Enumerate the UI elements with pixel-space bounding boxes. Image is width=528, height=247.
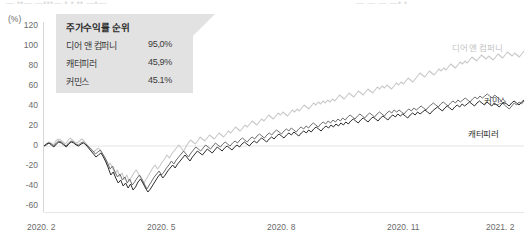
ranking-row-name: 캐터피러	[66, 57, 97, 70]
x-tick-label: 2020. 2	[27, 222, 55, 232]
y-tick-label: 60	[4, 81, 38, 90]
y-tick-label: 0	[4, 141, 38, 150]
ranking-panel-tail	[193, 14, 215, 36]
series-label-caterpillar: 캐터피러	[468, 127, 499, 139]
series-line	[44, 94, 524, 189]
y-axis-labels: 120100806040200-20-40-60	[0, 0, 38, 247]
ranking-panel-title: 주가수익률 순위	[66, 20, 129, 34]
y-tick-label: 40	[4, 101, 38, 110]
ranking-row: 캐터피러 45,9%	[66, 57, 194, 72]
ranking-row: 커민스 45.1%	[66, 75, 194, 90]
series-label-cummins: 커민스	[484, 94, 507, 106]
ranking-row-name: 커민스	[66, 75, 89, 88]
y-tick-label: 100	[4, 41, 38, 50]
y-tick-label: 80	[4, 61, 38, 70]
y-tick-label: -20	[4, 161, 38, 170]
y-tick-label: 120	[4, 21, 38, 30]
x-tick-label: 2021. 2	[486, 222, 514, 232]
y-tick-label: 20	[4, 121, 38, 130]
x-tick-label: 2020. 11	[387, 222, 419, 232]
ranking-row-value: 45.1%	[148, 75, 172, 85]
y-tick-label: -40	[4, 181, 38, 190]
ranking-row: 디어 앤 컴퍼니 95,0%	[66, 39, 194, 54]
ranking-row-name: 디어 앤 컴퍼니	[66, 39, 117, 52]
ranking-row-value: 45,9%	[148, 57, 172, 67]
series-label-deere: 디어 앤 컴퍼니	[452, 41, 502, 53]
y-tick-label: -60	[4, 201, 38, 210]
x-tick-label: 2020. 8	[267, 222, 295, 232]
ranking-row-value: 95,0%	[148, 39, 172, 49]
x-tick-label: 2020. 5	[147, 222, 175, 232]
